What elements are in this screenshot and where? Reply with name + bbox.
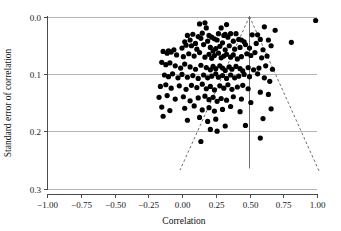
data-point <box>169 86 174 91</box>
data-point <box>197 115 202 120</box>
data-point <box>200 107 205 112</box>
data-point <box>225 35 230 40</box>
data-point <box>205 119 210 124</box>
data-point <box>228 104 233 109</box>
data-point <box>255 32 260 37</box>
data-point <box>161 114 166 119</box>
data-point <box>243 42 248 47</box>
data-point <box>258 135 263 140</box>
data-point <box>181 54 186 59</box>
x-tick-label: 0.75 <box>276 200 292 210</box>
data-point <box>174 52 179 57</box>
x-axis-title: Correlation <box>162 216 206 226</box>
data-point <box>196 95 201 100</box>
data-point <box>220 107 225 112</box>
data-point <box>200 82 205 87</box>
data-point <box>260 116 265 121</box>
y-tick-label: 0.3 <box>30 185 42 195</box>
data-point <box>260 47 265 52</box>
data-point <box>189 83 194 88</box>
data-point <box>194 85 199 90</box>
gridlines-group <box>47 18 317 190</box>
data-points-group <box>156 18 318 144</box>
data-point <box>169 49 174 54</box>
data-point <box>251 67 256 72</box>
x-tick-label: 0.50 <box>243 200 259 210</box>
data-point <box>212 109 217 114</box>
data-point <box>205 39 210 44</box>
data-point <box>216 31 221 36</box>
data-point <box>197 21 202 26</box>
data-point <box>264 53 269 58</box>
data-point <box>256 66 261 71</box>
data-point <box>213 117 218 122</box>
data-point <box>246 86 251 91</box>
data-point <box>263 63 268 68</box>
data-point <box>196 76 201 81</box>
data-point <box>173 96 178 101</box>
data-point <box>210 95 215 100</box>
y-tick-label: 0.1 <box>30 70 41 80</box>
data-point <box>231 94 236 99</box>
data-point <box>224 98 229 103</box>
data-point <box>248 100 253 105</box>
data-point <box>209 35 214 40</box>
x-tick-label: 0.25 <box>209 200 225 210</box>
data-point <box>266 92 271 97</box>
data-point <box>269 106 274 111</box>
data-point <box>247 45 252 50</box>
data-point <box>266 37 271 42</box>
data-point <box>223 123 228 128</box>
data-point <box>237 45 242 50</box>
data-point <box>163 82 168 87</box>
data-point <box>231 39 236 44</box>
data-point <box>192 53 197 58</box>
data-point <box>159 104 164 109</box>
data-point <box>242 72 247 77</box>
data-point <box>188 64 193 69</box>
data-point <box>217 44 222 49</box>
data-point <box>185 75 190 80</box>
data-point <box>198 63 203 68</box>
data-point <box>239 96 244 101</box>
data-point <box>190 73 195 78</box>
data-point <box>224 22 229 27</box>
data-point <box>229 87 234 92</box>
data-point <box>158 84 163 89</box>
data-point <box>289 40 294 45</box>
data-point <box>204 25 209 30</box>
data-point <box>183 43 188 48</box>
x-tick-label: −1.00 <box>37 200 58 210</box>
data-point <box>225 82 230 87</box>
x-tick-label: −0.25 <box>138 200 159 210</box>
data-point <box>235 84 240 89</box>
x-tick-label: −0.50 <box>105 200 126 210</box>
data-point <box>254 41 259 46</box>
data-point <box>236 74 241 79</box>
data-point <box>227 43 232 48</box>
data-point <box>219 25 224 30</box>
data-point <box>273 28 278 33</box>
funnel-plot-figure: −1.00−0.75−0.50−0.250.000.250.500.751.00… <box>0 0 341 231</box>
y-tick-label: 0.2 <box>30 127 41 137</box>
data-point <box>267 79 272 84</box>
data-point <box>183 87 188 92</box>
data-point <box>259 55 264 60</box>
data-point <box>182 106 187 111</box>
data-point <box>167 60 172 65</box>
y-axis-title: Standard error of correlation <box>3 49 13 158</box>
data-point <box>188 98 193 103</box>
data-point <box>237 109 242 114</box>
data-point <box>270 67 275 72</box>
data-point <box>192 103 197 108</box>
data-point <box>212 87 217 92</box>
data-point <box>200 31 205 36</box>
data-point <box>181 94 186 99</box>
data-point <box>250 32 255 37</box>
data-point <box>202 94 207 99</box>
axes-group <box>44 16 318 199</box>
data-point <box>197 50 202 55</box>
data-point <box>221 86 226 91</box>
data-point <box>186 51 191 56</box>
data-point <box>258 90 263 95</box>
